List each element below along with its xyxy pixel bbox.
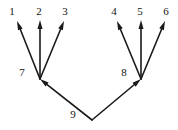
arrowhead-8-to-5 xyxy=(139,20,144,29)
graph-edge-9-to-7 xyxy=(45,83,92,120)
node-label-1: 1 xyxy=(9,6,15,17)
node-label-2: 2 xyxy=(36,6,42,17)
arrowhead-7-to-3 xyxy=(58,21,64,30)
node-label-8: 8 xyxy=(121,67,127,78)
node-label-9: 9 xyxy=(70,109,76,120)
graph-edge-9-to-8 xyxy=(92,83,136,120)
edge-layer xyxy=(17,20,165,120)
graph-edge-7-to-3 xyxy=(40,27,61,79)
node-label-7: 7 xyxy=(19,67,25,78)
graph-edge-8-to-6 xyxy=(141,27,162,79)
graph-canvas xyxy=(0,0,178,130)
arrowhead-8-to-4 xyxy=(117,21,123,30)
node-label-4: 4 xyxy=(111,6,117,17)
node-label-3: 3 xyxy=(62,6,68,17)
arrowhead-7-to-1 xyxy=(17,21,23,30)
graph-diagram-figure: 123456789 xyxy=(0,0,178,130)
arrowhead-7-to-2 xyxy=(38,20,43,29)
node-label-6: 6 xyxy=(163,6,169,17)
node-label-5: 5 xyxy=(137,6,143,17)
arrowhead-8-to-6 xyxy=(159,21,165,30)
